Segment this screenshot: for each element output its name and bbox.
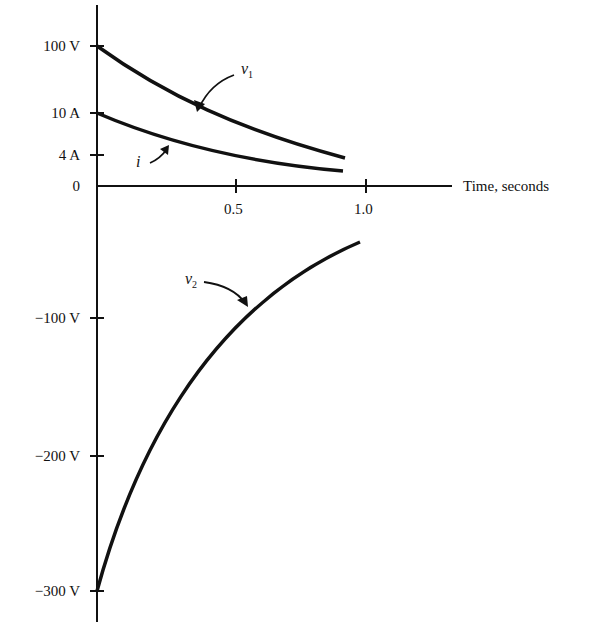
v1-label-sub: 1: [248, 69, 253, 80]
x-tick-label-0-5: 0.5: [224, 202, 243, 217]
i-label: i: [136, 154, 140, 170]
x-axis-title: Time, seconds: [463, 179, 549, 194]
y-tick-label-10a: 10 A: [0, 106, 80, 121]
i-label-main: i: [136, 153, 140, 170]
v2-label-sub: 2: [192, 279, 197, 290]
y-tick-label-4a: 4 A: [0, 148, 80, 163]
v1-curve: [97, 46, 345, 158]
chart-plot-area: [0, 0, 591, 639]
v2-label: v2: [185, 271, 197, 290]
v1-label: v1: [241, 61, 253, 80]
v1-arrow-icon: [194, 75, 234, 112]
x-tick-label-1-0: 1.0: [354, 202, 373, 217]
y-tick-label-neg300v: −300 V: [0, 584, 80, 599]
y-tick-label-neg200v: −200 V: [0, 449, 80, 464]
i-arrow-icon: [150, 145, 169, 163]
y-tick-label-100v: 100 V: [0, 39, 80, 54]
v2-curve: [97, 242, 360, 591]
y-tick-label-neg100v: −100 V: [0, 311, 80, 326]
i-curve: [97, 113, 343, 171]
v2-arrow-icon: [204, 282, 248, 307]
y-tick-label-0: 0: [0, 179, 80, 194]
